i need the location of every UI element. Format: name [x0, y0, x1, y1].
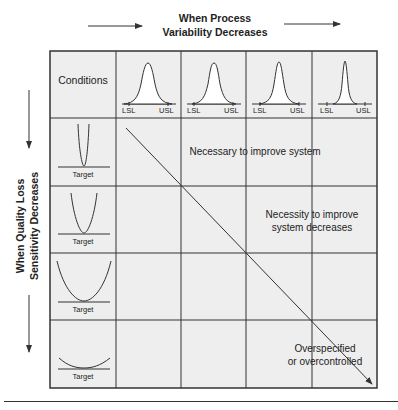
- region-necessity-decreases: Necessity to improve system decreases: [246, 208, 378, 234]
- target-label-4: Target: [50, 372, 116, 381]
- lsl-label-3: LSL: [253, 106, 266, 115]
- usl-label-2: USL: [224, 106, 239, 115]
- region-overspecified: Overspecified or overcontrolled: [270, 342, 380, 368]
- conditions-label: Conditions: [50, 74, 116, 86]
- region3-line1: Overspecified: [270, 342, 380, 355]
- usl-label-3: USL: [290, 106, 305, 115]
- side-title-line2: Sensitivity Decreases: [27, 161, 41, 291]
- lsl-label-1: LSL: [122, 106, 135, 115]
- target-label-1: Target: [50, 170, 116, 179]
- target-label-2: Target: [50, 237, 116, 246]
- usl-label-1: USL: [159, 106, 174, 115]
- region3-line2: or overcontrolled: [270, 355, 380, 368]
- usl-label-4: USL: [356, 106, 371, 115]
- lsl-label-4: LSL: [320, 106, 333, 115]
- region-improve-system: Necessary to improve system: [175, 145, 335, 158]
- top-axis-title: When Process Variability Decreases: [150, 11, 280, 39]
- region2-line1: Necessity to improve: [246, 208, 378, 221]
- side-title-line1: When Quality Loss: [13, 161, 27, 291]
- bottom-rule: [4, 401, 398, 402]
- lsl-label-2: LSL: [187, 106, 200, 115]
- region2-line2: system decreases: [246, 221, 378, 234]
- target-label-3: Target: [50, 305, 116, 314]
- side-axis-title: When Quality Loss Sensitivity Decreases: [13, 161, 41, 291]
- top-title-line1: When Process: [150, 11, 280, 25]
- top-title-line2: Variability Decreases: [150, 25, 280, 39]
